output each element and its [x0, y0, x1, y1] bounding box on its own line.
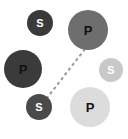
node-label: P [86, 101, 95, 114]
node-s-right[interactable]: S [99, 58, 123, 82]
node-s-bottom-left[interactable]: S [26, 94, 52, 120]
node-p-top-right[interactable]: P [68, 10, 108, 50]
node-label: S [107, 65, 114, 76]
node-label: P [19, 63, 28, 76]
diagram-canvas: S P P S S P [0, 0, 128, 139]
node-p-left[interactable]: P [4, 50, 42, 88]
node-p-bottom[interactable]: P [70, 87, 110, 127]
node-s-top-left[interactable]: S [27, 10, 53, 36]
node-label: S [35, 102, 42, 113]
node-label: P [84, 24, 93, 37]
node-label: S [36, 18, 43, 29]
